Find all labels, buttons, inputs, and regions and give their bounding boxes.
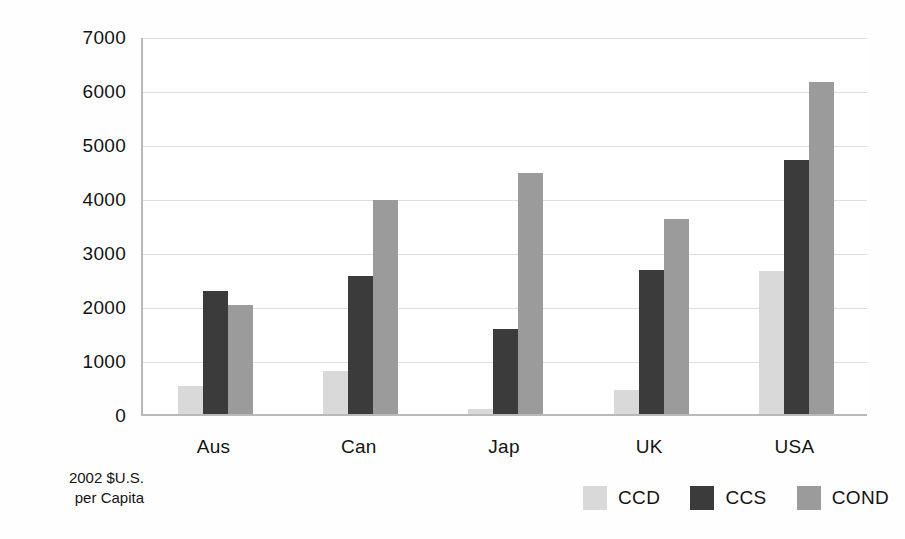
legend-item-ccd[interactable]: CCD: [583, 486, 660, 510]
bar-usa-ccd: [759, 271, 784, 414]
y-axis-tick-label: 3000: [6, 243, 126, 265]
bar-jap-ccs: [493, 329, 518, 414]
legend-swatch-ccd-icon: [583, 486, 607, 510]
bar-series-layer: [143, 38, 867, 414]
bar-can-ccd: [323, 371, 348, 414]
y-axis-tick-label: 4000: [6, 189, 126, 211]
y-axis-title-line-2: per Capita: [12, 488, 144, 508]
legend-item-ccs[interactable]: CCS: [690, 486, 766, 510]
plot-area: [141, 38, 867, 416]
legend-label-cond: COND: [832, 487, 890, 509]
bar-uk-ccd: [614, 390, 639, 414]
y-axis-tick-label: 1000: [6, 351, 126, 373]
x-axis-tick-labels: AusCanJapUKUSA: [141, 436, 867, 466]
y-axis-tick-label: 0: [6, 405, 126, 427]
bar-aus-ccd: [178, 386, 203, 414]
bar-jap-ccd: [468, 409, 493, 414]
bar-usa-ccs: [784, 160, 809, 414]
legend-label-ccs: CCS: [725, 487, 766, 509]
bar-chart-figure: 01000200030004000500060007000 AusCanJapU…: [0, 0, 905, 539]
legend-swatch-ccs-icon: [690, 486, 714, 510]
x-axis-tick-label-aus: Aus: [197, 436, 231, 458]
bar-usa-cond: [809, 82, 834, 414]
y-axis-tick-label: 2000: [6, 297, 126, 319]
bar-group-jap: [433, 38, 578, 414]
legend-label-ccd: CCD: [618, 487, 660, 509]
bar-aus-cond: [228, 305, 253, 414]
bar-jap-cond: [518, 173, 543, 414]
bar-uk-cond: [664, 219, 689, 414]
y-axis-tick-label: 6000: [6, 81, 126, 103]
bar-group-can: [288, 38, 433, 414]
x-axis-tick-label-can: Can: [341, 436, 377, 458]
bar-can-ccs: [348, 276, 373, 414]
x-axis-tick-label-uk: UK: [636, 436, 663, 458]
bar-group-aus: [143, 38, 288, 414]
y-axis-tick-label: 5000: [6, 135, 126, 157]
chart-legend: CCDCCSCOND: [583, 486, 889, 510]
legend-swatch-cond-icon: [797, 486, 821, 510]
x-axis-tick-label-jap: Jap: [488, 436, 520, 458]
y-axis-tick-labels: 01000200030004000500060007000: [0, 0, 126, 539]
legend-item-cond[interactable]: COND: [797, 486, 890, 510]
y-axis-tick-label: 7000: [6, 27, 126, 49]
bar-aus-ccs: [203, 291, 228, 414]
bar-can-cond: [373, 200, 398, 414]
bar-uk-ccs: [639, 270, 664, 414]
bar-group-uk: [579, 38, 724, 414]
y-axis-title-line-1: 2002 $U.S.: [12, 468, 144, 488]
x-axis-tick-label-usa: USA: [774, 436, 814, 458]
y-axis-title: 2002 $U.S.per Capita: [12, 468, 144, 508]
bar-group-usa: [724, 38, 869, 414]
